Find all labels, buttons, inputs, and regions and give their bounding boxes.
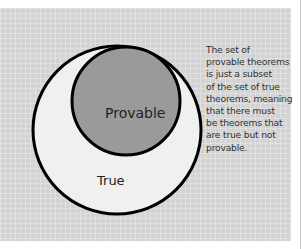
annotation-line: provable theorems: [206, 56, 286, 68]
annotation-line: be theorems that: [206, 117, 286, 129]
annotation-line: is just a subset: [206, 68, 286, 80]
annotation-text: The set of provable theorems is just a s…: [206, 44, 286, 154]
annotation-line: The set of: [206, 44, 286, 56]
annotation-line: that there must: [206, 105, 286, 117]
annotation-line: are true but not: [206, 129, 286, 141]
annotation-line: theorems, meaning: [206, 93, 286, 105]
provable-label: Provable: [105, 105, 165, 121]
annotation-line: provable.: [206, 142, 286, 154]
provable-set-circle: [72, 47, 180, 155]
true-label: True: [96, 173, 125, 188]
annotation-line: of the set of true: [206, 81, 286, 93]
